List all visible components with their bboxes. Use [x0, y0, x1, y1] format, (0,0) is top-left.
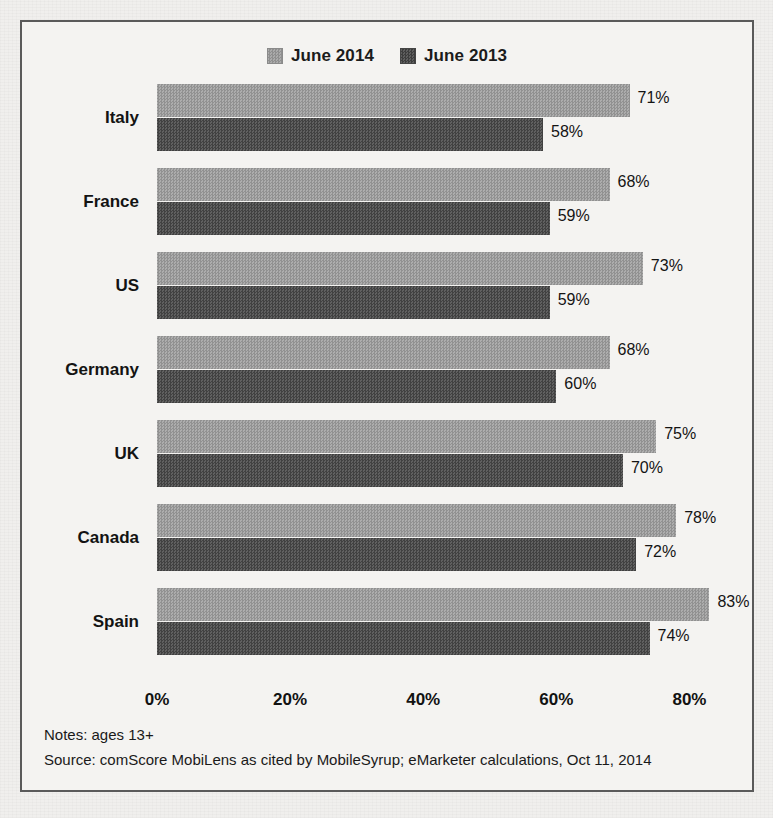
bar-spain-june-2013 — [157, 622, 650, 655]
x-axis: 0%20%40%60%80% — [157, 684, 756, 720]
footnotes: Notes: ages 13+ Source: comScore MobiLen… — [44, 722, 734, 772]
bar-value-label: 59% — [558, 207, 590, 225]
chart-row: Spain83%74% — [22, 580, 756, 664]
x-axis-tick-20: 20% — [273, 690, 307, 710]
bar-uk-june-2014 — [157, 420, 656, 453]
bar-spain-june-2014 — [157, 588, 709, 621]
bar-germany-june-2014 — [157, 336, 610, 369]
bar-value-label: 58% — [551, 123, 583, 141]
x-axis-tick-0: 0% — [145, 690, 170, 710]
bar-italy-june-2013 — [157, 118, 543, 151]
chart-row: Germany68%60% — [22, 328, 756, 412]
bar-value-label: 70% — [631, 459, 663, 477]
x-axis-tick-40: 40% — [406, 690, 440, 710]
bar-france-june-2014 — [157, 168, 610, 201]
bar-group: 78%72% — [157, 503, 756, 573]
bar-france-june-2013 — [157, 202, 550, 235]
category-label-germany: Germany — [22, 360, 157, 380]
legend-item-june-2013: June 2013 — [400, 46, 507, 66]
chart-legend: June 2014 June 2013 — [22, 46, 752, 66]
bar-us-june-2013 — [157, 286, 550, 319]
chart-row: Italy71%58% — [22, 76, 756, 160]
x-axis-tick-80: 80% — [672, 690, 706, 710]
bar-italy-june-2014 — [157, 84, 630, 117]
category-label-canada: Canada — [22, 528, 157, 548]
chart-row: France68%59% — [22, 160, 756, 244]
bar-group: 75%70% — [157, 419, 756, 489]
x-axis-tick-60: 60% — [539, 690, 573, 710]
bar-value-label: 74% — [658, 627, 690, 645]
bar-value-label: 59% — [558, 291, 590, 309]
bar-value-label: 78% — [684, 509, 716, 527]
chart-row: UK75%70% — [22, 412, 756, 496]
bar-canada-june-2013 — [157, 538, 636, 571]
legend-label-june-2013: June 2013 — [424, 46, 507, 66]
legend-swatch-2013-icon — [400, 48, 416, 64]
bar-value-label: 68% — [618, 341, 650, 359]
chart-row: US73%59% — [22, 244, 756, 328]
bar-value-label: 75% — [664, 425, 696, 443]
bar-canada-june-2014 — [157, 504, 676, 537]
bar-value-label: 71% — [638, 89, 670, 107]
legend-item-june-2014: June 2014 — [267, 46, 374, 66]
footnote-notes: Notes: ages 13+ — [44, 722, 734, 747]
footnote-source: Source: comScore MobiLens as cited by Mo… — [44, 747, 734, 772]
bar-group: 83%74% — [157, 587, 756, 657]
category-label-italy: Italy — [22, 108, 157, 128]
bar-value-label: 83% — [717, 593, 749, 611]
bar-group: 71%58% — [157, 83, 756, 153]
bar-group: 73%59% — [157, 251, 756, 321]
chart-row: Canada78%72% — [22, 496, 756, 580]
chart-frame: June 2014 June 2013 Italy71%58%France68%… — [20, 20, 754, 792]
bar-germany-june-2013 — [157, 370, 556, 403]
bar-us-june-2014 — [157, 252, 643, 285]
bar-group: 68%60% — [157, 335, 756, 405]
bar-group: 68%59% — [157, 167, 756, 237]
bar-value-label: 72% — [644, 543, 676, 561]
category-label-spain: Spain — [22, 612, 157, 632]
bar-uk-june-2013 — [157, 454, 623, 487]
bar-value-label: 73% — [651, 257, 683, 275]
legend-label-june-2014: June 2014 — [291, 46, 374, 66]
bar-value-label: 60% — [564, 375, 596, 393]
legend-swatch-2014-icon — [267, 48, 283, 64]
category-label-us: US — [22, 276, 157, 296]
plot-area: Italy71%58%France68%59%US73%59%Germany68… — [22, 76, 756, 684]
bar-value-label: 68% — [618, 173, 650, 191]
category-label-uk: UK — [22, 444, 157, 464]
category-label-france: France — [22, 192, 157, 212]
